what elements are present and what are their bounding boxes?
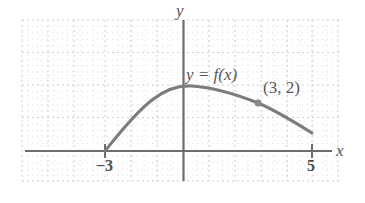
point-marker-3-2 (255, 100, 262, 107)
y-axis-label: y (176, 2, 184, 19)
x-tick-label-neg3: −3 (96, 158, 113, 174)
grid-dotted (22, 20, 340, 181)
coordinate-axes (25, 20, 332, 181)
curve-equation-label: y = f(x) (186, 66, 237, 83)
point-coordinate-label: (3, 2) (263, 79, 300, 96)
x-tick-label-5: 5 (307, 158, 315, 174)
x-axis-label: x (336, 142, 344, 159)
function-graph-figure: y x y = f(x) (3, 2) −3 5 (0, 0, 365, 203)
